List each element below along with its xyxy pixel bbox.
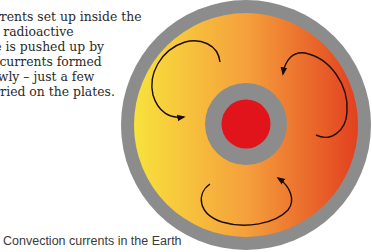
figure-caption: Convection currents in the Earth	[3, 234, 182, 248]
earth-convection-diagram	[0, 0, 372, 252]
inner-core	[222, 100, 271, 149]
